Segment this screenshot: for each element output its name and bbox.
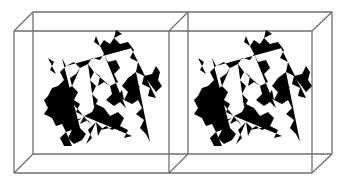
left-wireframe-box [14, 12, 188, 173]
stereo-pair-canvas [0, 0, 343, 184]
right-wireframe-box [169, 12, 332, 173]
stereo-figure: Stereo pair of a protein backbone/struct… [0, 0, 343, 184]
right-molecule-structure [194, 30, 312, 146]
left-molecule-structure [44, 30, 162, 146]
